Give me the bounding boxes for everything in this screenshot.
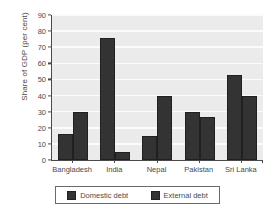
y-tick-label: 90 xyxy=(38,11,46,20)
x-tick-mark xyxy=(262,160,263,163)
bar-chart: Share of GDP (per cent) 0102030405060708… xyxy=(0,0,275,220)
bar xyxy=(73,112,88,160)
y-tick-label: 0 xyxy=(42,156,46,165)
bar-group xyxy=(221,15,263,160)
x-tick-label: Bangladesh xyxy=(52,165,92,174)
x-tick-mark xyxy=(157,160,158,163)
bars-layer xyxy=(52,15,263,160)
y-tick-label: 30 xyxy=(38,107,46,116)
legend-label: Domestic debt xyxy=(80,191,128,200)
plot-area xyxy=(51,15,263,161)
bar xyxy=(227,75,242,160)
legend-swatch xyxy=(67,191,76,200)
chart-legend: Domestic debtExternal debt xyxy=(55,186,220,204)
bar xyxy=(58,134,73,160)
bar xyxy=(115,152,130,160)
bar xyxy=(242,96,257,160)
bar xyxy=(185,112,200,160)
bar xyxy=(100,38,115,160)
x-tick-mark xyxy=(72,160,73,163)
bar-group xyxy=(52,15,94,160)
bar-group xyxy=(136,15,178,160)
legend-entry: External debt xyxy=(151,191,208,200)
y-tick-label: 70 xyxy=(38,43,46,52)
x-tick-mark xyxy=(241,160,242,163)
bar xyxy=(157,96,172,160)
y-tick-label: 10 xyxy=(38,139,46,148)
x-tick-mark xyxy=(199,160,200,163)
bar-group xyxy=(94,15,136,160)
x-tick-label: Nepal xyxy=(147,165,167,174)
x-tick-label: India xyxy=(106,165,122,174)
x-tick-mark xyxy=(114,160,115,163)
x-tick-label: Sri Lanka xyxy=(225,165,257,174)
y-tick-label: 80 xyxy=(38,27,46,36)
bar xyxy=(200,117,215,161)
legend-entry: Domestic debt xyxy=(67,191,128,200)
y-tick-label: 20 xyxy=(38,123,46,132)
x-tick-label: Pakistan xyxy=(184,165,213,174)
bar xyxy=(142,136,157,160)
y-tick-label: 40 xyxy=(38,91,46,100)
bar-group xyxy=(179,15,221,160)
y-axis-ticks: 0102030405060708090 xyxy=(0,15,51,160)
y-tick-label: 50 xyxy=(38,75,46,84)
x-axis: BangladeshIndiaNepalPakistanSri Lanka xyxy=(51,160,262,178)
y-tick-label: 60 xyxy=(38,59,46,68)
legend-swatch xyxy=(151,191,160,200)
legend-label: External debt xyxy=(164,191,208,200)
